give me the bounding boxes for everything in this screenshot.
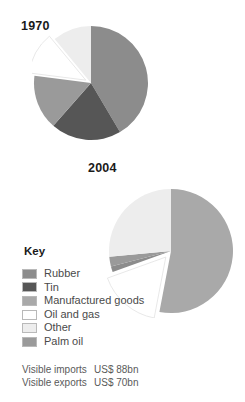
legend-item-label: Tin (44, 281, 59, 295)
legend-item-label: Other (44, 321, 72, 335)
legend-swatch (22, 296, 37, 306)
legend-swatch (22, 310, 37, 320)
legend-item: Tin (22, 281, 172, 295)
figure-notes: Visible importsUS$ 88bnVisible exportsUS… (22, 364, 138, 389)
note-row: Visible importsUS$ 88bn (22, 364, 138, 377)
legend-swatch (22, 282, 37, 292)
pie-title-2004: 2004 (88, 161, 117, 175)
legend-item-label: Oil and gas (44, 308, 100, 322)
legend-swatch (22, 323, 37, 333)
note-label: Visible exports (22, 377, 94, 390)
legend-item-label: Palm oil (44, 335, 83, 349)
note-value: US$ 88bn (94, 364, 138, 377)
legend-item-label: Rubber (44, 267, 80, 281)
legend-title: Key (24, 245, 172, 257)
figure-canvas: 1970 2004 Key RubberTinManufactured good… (0, 0, 245, 402)
legend-swatch (22, 269, 37, 279)
legend-item: Palm oil (22, 335, 172, 349)
legend-item: Rubber (22, 267, 172, 281)
legend-item-label: Manufactured goods (44, 294, 144, 308)
note-label: Visible imports (22, 364, 94, 377)
legend-item: Oil and gas (22, 308, 172, 322)
note-value: US$ 70bn (94, 377, 138, 390)
pie-chart-1970 (32, 24, 152, 144)
note-list: Visible importsUS$ 88bnVisible exportsUS… (22, 364, 138, 389)
legend-swatch (22, 337, 37, 347)
legend-key: Key RubberTinManufactured goodsOil and g… (22, 245, 172, 349)
legend-items: RubberTinManufactured goodsOil and gasOt… (22, 267, 172, 349)
note-row: Visible exportsUS$ 70bn (22, 377, 138, 390)
legend-item: Other (22, 321, 172, 335)
legend-item: Manufactured goods (22, 294, 172, 308)
